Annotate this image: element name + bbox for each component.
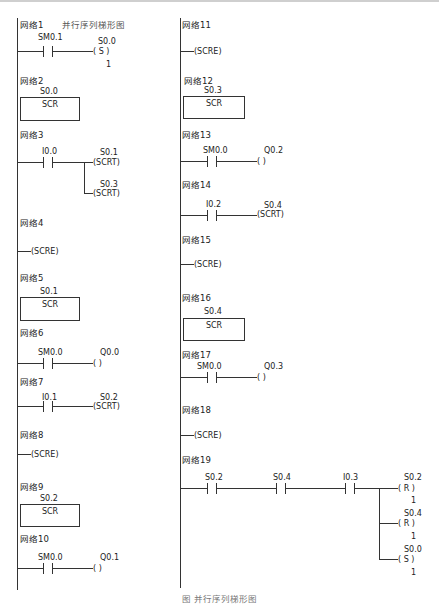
contact-address: I0.3 — [343, 473, 358, 482]
contact-address: S0.2 — [205, 473, 223, 482]
wire — [180, 488, 207, 489]
branch-wire — [84, 162, 85, 194]
scrt-coil[interactable]: (SCRT) — [93, 402, 120, 412]
wire — [180, 51, 194, 52]
network-label: 网络9 — [20, 482, 43, 492]
contact-address: SM0.0 — [203, 146, 228, 155]
network-label: 网络19 — [182, 455, 211, 465]
contact-address: SM0.0 — [38, 348, 63, 357]
network-label: 网络2 — [20, 76, 43, 86]
wire — [17, 51, 43, 52]
output-coil[interactable]: ( ) — [93, 359, 102, 369]
wire — [17, 568, 43, 569]
no-contact-icon[interactable] — [207, 372, 217, 383]
no-contact-icon[interactable] — [207, 210, 217, 221]
wire — [17, 454, 31, 455]
output-coil[interactable]: ( ) — [257, 373, 266, 383]
coil-address: Q0.2 — [264, 146, 283, 155]
wire — [355, 488, 398, 489]
network-label: 网络5 — [20, 273, 43, 283]
network-label: 网络17 — [182, 350, 211, 360]
coil-address: Q0.1 — [100, 553, 119, 562]
wire — [17, 363, 43, 364]
coil-address: Q0.0 — [100, 348, 119, 357]
reset-coil[interactable]: ( R ) — [398, 519, 415, 529]
coil-address: S0.4 — [264, 201, 282, 210]
contact-address: SM0.0 — [197, 362, 222, 371]
scr-box[interactable]: SCR — [183, 318, 245, 341]
scre-coil[interactable]: (SCRE) — [194, 431, 222, 441]
scrt-coil[interactable]: (SCRT) — [257, 210, 284, 220]
wire — [53, 363, 93, 364]
scr-box-label: SCR — [184, 99, 244, 108]
set-coil[interactable]: ( S ) — [398, 555, 414, 565]
scr-address: S0.3 — [204, 86, 222, 95]
scr-box[interactable]: SCR — [20, 297, 80, 321]
network-label: 网络16 — [182, 293, 211, 303]
coil-count: 1 — [411, 532, 416, 541]
output-coil[interactable]: ( ) — [257, 157, 266, 167]
network-label: 网络1 — [20, 20, 43, 30]
reset-coil[interactable]: ( R ) — [398, 484, 415, 494]
scre-coil[interactable]: (SCRE) — [31, 247, 59, 257]
no-contact-icon[interactable] — [43, 358, 53, 369]
wire — [180, 161, 207, 162]
network-label: 网络13 — [182, 130, 211, 140]
scre-coil[interactable]: (SCRE) — [31, 450, 59, 460]
left-power-rail — [17, 18, 18, 590]
scrt-coil[interactable]: (SCRT) — [93, 158, 120, 168]
set-coil[interactable]: ( S ) — [93, 47, 109, 57]
network-label: 网络10 — [20, 534, 49, 544]
no-contact-icon[interactable] — [43, 157, 53, 168]
coil-address: S0.0 — [98, 37, 116, 46]
top-border — [0, 0, 439, 2]
scre-coil[interactable]: (SCRE) — [194, 260, 222, 270]
network-label: 网络7 — [20, 377, 43, 387]
contact-address: I0.2 — [206, 200, 221, 209]
coil-address: S0.1 — [100, 148, 118, 157]
network-label: 网络8 — [20, 430, 43, 440]
scr-address: S0.2 — [40, 494, 58, 503]
no-contact-icon[interactable] — [43, 563, 53, 574]
scr-box-label: SCR — [21, 300, 79, 309]
output-coil[interactable]: ( ) — [93, 564, 102, 574]
coil-address: Q0.3 — [264, 362, 283, 371]
scr-address: S0.0 — [40, 87, 58, 96]
no-contact-icon[interactable] — [345, 483, 355, 494]
right-power-rail — [180, 18, 181, 588]
no-contact-icon[interactable] — [207, 483, 217, 494]
wire — [17, 251, 31, 252]
wire — [379, 559, 398, 560]
no-contact-icon[interactable] — [43, 46, 53, 57]
coil-count: 1 — [106, 60, 111, 69]
wire — [217, 377, 257, 378]
diagram-title: 并行序列梯形图 — [62, 20, 125, 30]
wire — [53, 406, 93, 407]
scrt-coil[interactable]: (SCRT) — [93, 189, 120, 199]
scr-address: S0.4 — [204, 307, 222, 316]
scr-box[interactable]: SCR — [20, 504, 80, 527]
coil-address: S0.4 — [404, 509, 422, 518]
wire — [53, 51, 93, 52]
network-label: 网络3 — [20, 130, 43, 140]
scr-address: S0.1 — [40, 287, 58, 296]
wire — [180, 264, 194, 265]
figure-caption: 图 并行序列梯形图 — [0, 592, 439, 604]
no-contact-icon[interactable] — [207, 156, 217, 167]
wire — [53, 568, 93, 569]
coil-address: S0.0 — [404, 545, 422, 554]
network-label: 网络18 — [182, 405, 211, 415]
scr-box[interactable]: SCR — [20, 97, 80, 121]
scr-box[interactable]: SCR — [183, 96, 245, 119]
network-label: 网络11 — [182, 20, 211, 30]
coil-count: 1 — [411, 496, 416, 505]
network-label: 网络12 — [184, 76, 213, 86]
wire — [53, 162, 93, 163]
scr-box-label: SCR — [21, 100, 79, 109]
contact-address: S0.4 — [273, 473, 291, 482]
no-contact-icon[interactable] — [276, 483, 286, 494]
coil-address: S0.2 — [404, 473, 422, 482]
contact-address: I0.0 — [42, 147, 57, 156]
scre-coil[interactable]: (SCRE) — [194, 47, 222, 57]
no-contact-icon[interactable] — [43, 401, 53, 412]
